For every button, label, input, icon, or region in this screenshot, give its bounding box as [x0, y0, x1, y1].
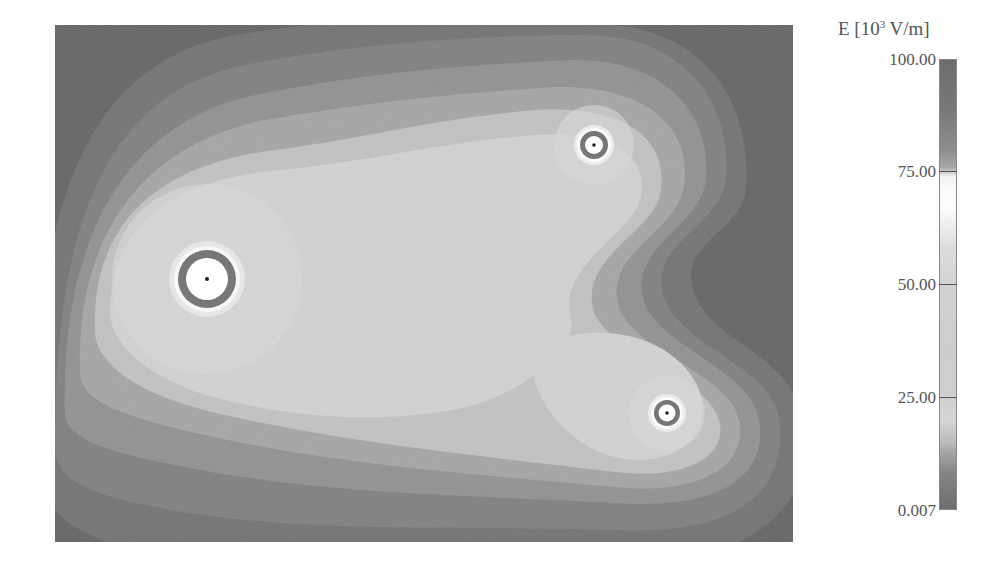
electrode-top-right — [574, 125, 614, 165]
colorbar-label-75: 75.00 — [846, 162, 936, 182]
field-contour-plot — [55, 25, 793, 542]
colorbar-label-25: 25.00 — [846, 388, 936, 408]
colorbar-title: E [103 V/m] — [838, 18, 930, 40]
electrode-bottom-right — [648, 394, 686, 432]
colorbar-tick-25 — [939, 397, 957, 398]
colorbar-tick-75 — [939, 171, 957, 172]
colorbar-tick-50 — [939, 284, 957, 285]
colorbar-label-min: 0.007 — [846, 501, 936, 521]
electrode-left — [169, 241, 245, 317]
colorbar-label-100: 100.00 — [846, 50, 936, 70]
colorbar-label-50: 50.00 — [846, 275, 936, 295]
